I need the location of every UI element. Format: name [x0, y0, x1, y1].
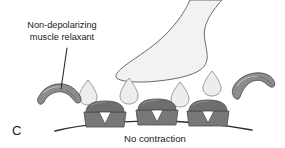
annotation-label-line1: Non-depolarizing — [27, 20, 96, 30]
receptor-group — [84, 99, 229, 127]
figure-panel-c: Non-depolarizing muscle relaxant No cont… — [0, 0, 285, 148]
panel-letter: C — [12, 123, 21, 138]
annotation-label-line2: muscle relaxant — [30, 32, 95, 42]
acetylcholine-receptor — [136, 99, 178, 125]
acetylcholine-receptor — [187, 100, 229, 126]
neuromuscular-junction-diagram: Non-depolarizing muscle relaxant No cont… — [0, 0, 285, 148]
acetylcholine-receptor — [84, 101, 126, 127]
figure-caption: No contraction — [124, 133, 186, 144]
